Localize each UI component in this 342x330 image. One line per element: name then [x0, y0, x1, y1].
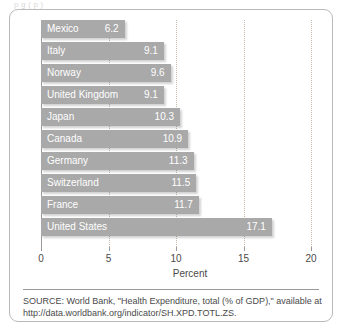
source-note-line-1: SOURCE: World Bank, "Health Expenditure,… — [23, 295, 323, 307]
x-tick-label: 5 — [94, 253, 124, 264]
bar-category-label: Italy — [47, 42, 65, 60]
bar-category-label: Japan — [47, 108, 74, 126]
x-axis-title: Percent — [10, 268, 334, 279]
bar-value-label: 6.2 — [95, 20, 119, 38]
bar-value-label: 9.1 — [134, 42, 158, 60]
bar-value-label: 17.1 — [242, 218, 266, 236]
gridline — [244, 20, 246, 247]
gridline — [311, 20, 313, 247]
source-note: SOURCE: World Bank, "Health Expenditure,… — [23, 295, 323, 319]
bar-row: Germany11.3 — [41, 152, 194, 170]
x-tick-label: 20 — [296, 253, 326, 264]
bar-category-label: France — [47, 196, 78, 214]
x-tick-mark — [176, 247, 177, 251]
bar-value-label: 11.5 — [166, 174, 190, 192]
x-tick-mark — [109, 247, 110, 251]
chart-plot-area: Mexico6.2Italy9.1Norway9.6United Kingdom… — [10, 10, 334, 248]
bar-row: United Kingdom9.1 — [41, 86, 164, 104]
bar-category-label: United States — [47, 218, 107, 236]
bar-row: Switzerland11.5 — [41, 174, 196, 192]
bar-row: Canada10.9 — [41, 130, 188, 148]
bar-row: France11.7 — [41, 196, 199, 214]
x-tick-mark — [311, 247, 312, 251]
bar-row: United States17.1 — [41, 218, 272, 236]
x-tick-label: 0 — [26, 253, 56, 264]
bar-category-label: Switzerland — [47, 174, 99, 192]
clipped-header-text: p g ( p ) — [0, 0, 342, 9]
bar-value-label: 10.9 — [158, 130, 182, 148]
bar-value-label: 9.1 — [134, 86, 158, 104]
figure-panel: Mexico6.2Italy9.1Norway9.6United Kingdom… — [9, 9, 333, 322]
bar-row: Norway9.6 — [41, 64, 171, 82]
x-tick-mark — [244, 247, 245, 251]
x-axis-title-label: Percent — [173, 268, 207, 279]
source-note-line-2: http://data.worldbank.org/indicator/SH.X… — [23, 307, 323, 319]
x-tick-mark — [41, 247, 42, 251]
bar-category-label: United Kingdom — [47, 86, 118, 104]
bar-value-label: 9.6 — [141, 64, 165, 82]
bar-value-label: 11.3 — [164, 152, 188, 170]
x-tick-label: 10 — [161, 253, 191, 264]
bar-value-label: 10.3 — [150, 108, 174, 126]
bar-row: Italy9.1 — [41, 42, 164, 60]
bar-value-label: 11.7 — [169, 196, 193, 214]
bar-category-label: Norway — [47, 64, 81, 82]
bar-row: Japan10.3 — [41, 108, 180, 126]
source-divider — [23, 289, 319, 290]
bar-category-label: Canada — [47, 130, 82, 148]
bar-category-label: Mexico — [47, 20, 79, 38]
bar-category-label: Germany — [47, 152, 88, 170]
bar-row: Mexico6.2 — [41, 20, 125, 38]
x-tick-label: 15 — [229, 253, 259, 264]
